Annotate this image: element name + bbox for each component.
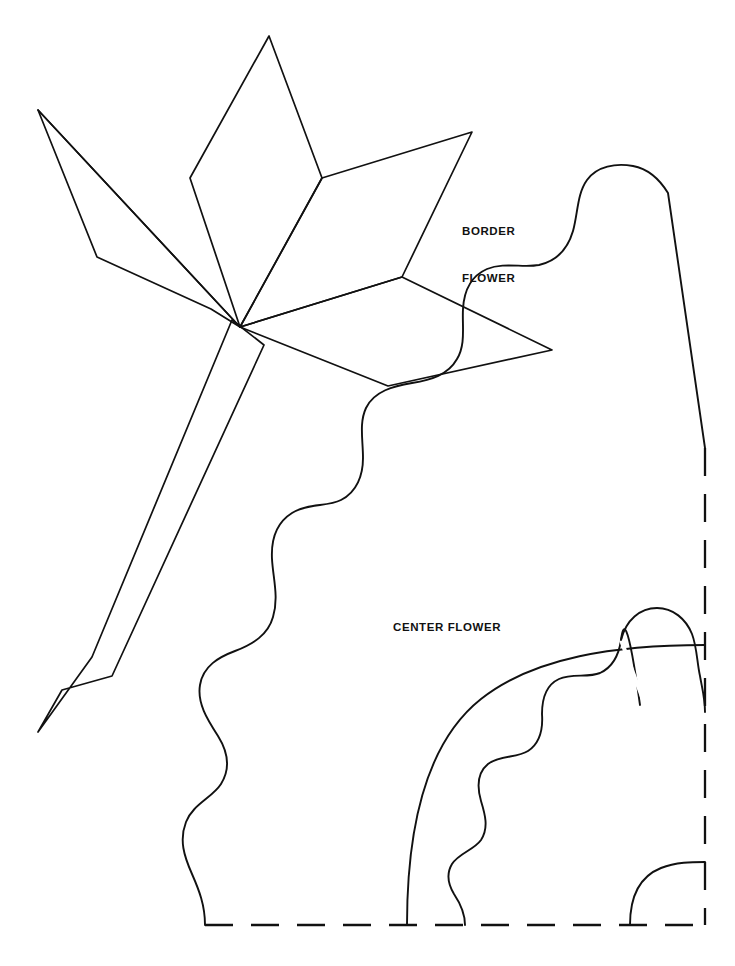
small-corner-arc xyxy=(630,862,705,925)
center-flower-motif xyxy=(183,165,705,925)
border-flower-label: BORDER FLOWER xyxy=(462,193,515,317)
border-flower-label-line2: FLOWER xyxy=(462,271,515,287)
pattern-sheet: BORDER FLOWER CENTER FLOWER xyxy=(0,0,735,966)
border-flower-label-line1: BORDER xyxy=(462,224,515,240)
pattern-artwork xyxy=(0,0,735,966)
outer-scallop-outline xyxy=(183,165,705,925)
dashed-fold-lines xyxy=(205,448,710,925)
center-flower-label: CENTER FLOWER xyxy=(393,620,501,636)
flower-stem xyxy=(38,320,264,732)
smooth-quarter-arc xyxy=(407,645,705,925)
upper-right-petal xyxy=(240,132,472,327)
top-petal xyxy=(190,36,322,327)
scalloped-inner-arc xyxy=(448,629,640,925)
